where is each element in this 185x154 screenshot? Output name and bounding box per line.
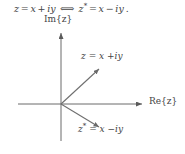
imaginary-axis-label: Im{z} [44,15,72,24]
vector-z-label-sign: + [107,51,115,61]
vector-zstar-label-imaginary: iy [115,124,123,134]
complex-plane-figure: z=x+iy⟺z*=x−iy. Im{z} Re{z} z = x +iy z* [0,0,185,154]
vector-zstar-label-sign: − [108,124,116,134]
vector-z-label: z = x +iy [81,52,123,61]
vector-z-label-real: x [99,51,104,61]
vector-z-label-variable: z [81,51,86,61]
vector-z-label-imaginary: iy [115,51,123,61]
vector-zstar-label-star: * [83,122,87,130]
vector-zstar-label-equals: = [89,124,97,134]
vector-z [61,69,99,104]
vector-z-conjugate-label: z* = x −iy [78,123,123,134]
real-axis-label: Re{z} [149,97,177,106]
vector-zstar-label-real: x [100,124,105,134]
vector-z-label-equals: = [89,51,97,61]
